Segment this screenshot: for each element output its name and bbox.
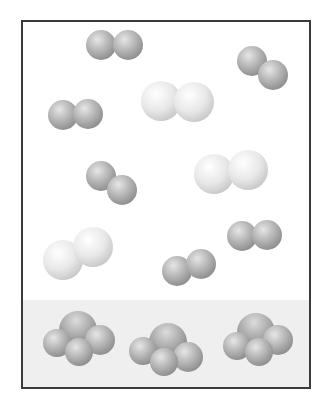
atom-icon [86,30,116,60]
atom-icon [174,82,214,122]
atom-icon [113,30,143,60]
atom-icon [228,150,268,190]
atom-icon [73,99,103,129]
phase-diagram [0,0,325,418]
atom-icon [186,249,216,279]
atom-icon [194,154,234,194]
satellite-atom-icon [65,338,93,366]
satellite-atom-icon [150,348,178,376]
satellite-atom-icon [245,338,273,366]
atom-icon [258,60,288,90]
satellite-atom-icon [173,342,203,372]
container-scene [0,0,325,418]
atom-icon [73,227,113,267]
atom-icon [252,220,282,250]
atom-icon [107,175,137,205]
